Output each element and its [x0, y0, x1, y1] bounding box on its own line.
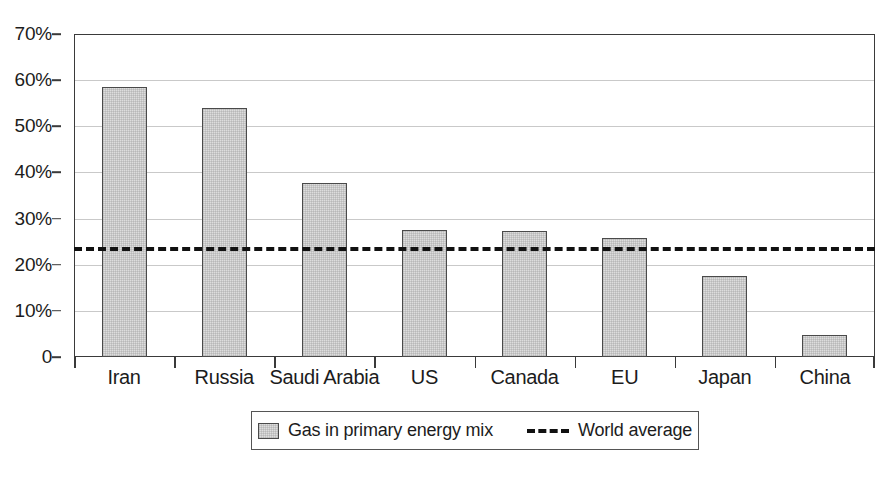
bar-china[interactable]	[802, 335, 847, 357]
y-tick-label: 20%	[15, 254, 52, 276]
y-tick-mark	[52, 125, 61, 127]
y-tick-label: 70%	[15, 23, 52, 45]
bar-eu[interactable]	[602, 238, 647, 357]
bar-japan[interactable]	[702, 276, 747, 357]
y-tick-mark	[52, 218, 61, 220]
gridline	[75, 265, 874, 266]
y-tick-mark	[52, 172, 61, 174]
gridline	[75, 219, 874, 220]
x-tick-label-eu: EU	[611, 366, 638, 389]
x-tick-label-russia: Russia	[195, 366, 254, 389]
gridline	[75, 80, 874, 81]
dashed-line-icon	[527, 429, 569, 433]
chart-figure: 010%20%30%40%50%60%70% IranRussiaSaudi A…	[0, 0, 895, 479]
x-tick-label-us: US	[411, 366, 438, 389]
x-tick-label-japan: Japan	[698, 366, 751, 389]
legend-entry-average[interactable]: World average	[527, 420, 692, 441]
y-tick-mark	[52, 33, 61, 35]
x-tick-label-saudi-arabia: Saudi Arabia	[269, 366, 379, 389]
gridline	[75, 172, 874, 173]
gridline	[75, 311, 874, 312]
y-tick-label: 50%	[15, 115, 52, 137]
bar-saudi-arabia[interactable]	[302, 183, 347, 357]
plot-area	[74, 34, 875, 357]
gridline	[75, 126, 874, 127]
y-tick-mark	[52, 310, 61, 312]
y-tick-label: 0	[42, 346, 52, 368]
y-tick-mark	[52, 79, 61, 81]
bar-iran[interactable]	[102, 87, 147, 357]
bar-russia[interactable]	[202, 108, 247, 357]
x-tick-label-china: China	[800, 366, 851, 389]
y-tick-mark	[52, 356, 61, 358]
x-axis-labels: IranRussiaSaudi ArabiaUSCanadaEUJapanChi…	[74, 366, 875, 400]
legend-label-average: World average	[578, 420, 692, 441]
y-tick-label: 40%	[15, 161, 52, 183]
bar-swatch-icon	[258, 423, 279, 439]
y-tick-label: 10%	[15, 300, 52, 322]
y-axis: 010%20%30%40%50%60%70%	[0, 0, 74, 479]
y-tick-mark	[52, 264, 61, 266]
legend-label-bars: Gas in primary energy mix	[288, 420, 493, 441]
legend-entry-bars[interactable]: Gas in primary energy mix	[258, 420, 493, 441]
x-tick-label-iran: Iran	[107, 366, 140, 389]
y-tick-label: 30%	[15, 208, 52, 230]
chart-legend: Gas in primary energy mix World average	[251, 411, 699, 450]
x-tick-label-canada: Canada	[490, 366, 558, 389]
world-average-line[interactable]	[74, 247, 875, 251]
y-tick-label: 60%	[15, 69, 52, 91]
